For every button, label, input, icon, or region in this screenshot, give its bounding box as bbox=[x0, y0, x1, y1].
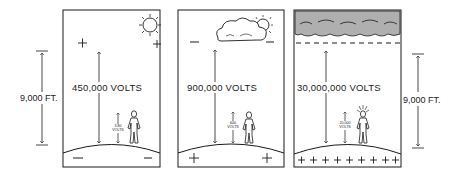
ground-curve bbox=[294, 145, 401, 155]
sky-charge-plus bbox=[78, 39, 161, 49]
cloudy-person-voltage: 600 VOLTS bbox=[225, 121, 241, 130]
fair-weather-atmosphere-voltage: 450,000 VOLTS bbox=[72, 82, 142, 93]
person-voltage-value: 3-80 bbox=[114, 124, 121, 128]
storm-cloud-icon bbox=[295, 11, 400, 36]
person-voltage-value: 600 bbox=[230, 121, 236, 125]
person-voltage-unit: VOLTS bbox=[112, 128, 124, 132]
fair-weather-person-voltage: 3-80 VOLTS bbox=[110, 124, 126, 133]
cloud-sun-icon bbox=[217, 15, 273, 41]
ground-charge-plus-row bbox=[298, 157, 399, 164]
sun-icon bbox=[139, 14, 161, 36]
person-icon bbox=[128, 111, 140, 143]
ground-curve bbox=[178, 144, 284, 153]
person-icon bbox=[243, 112, 255, 143]
thunderstorm-person-voltage: 20,000 VOLTS bbox=[336, 121, 354, 130]
person-voltage-value: 20,000 bbox=[340, 121, 351, 125]
ground-charge-plus bbox=[189, 153, 272, 163]
person-voltage-unit: VOLTS bbox=[227, 125, 239, 129]
ground-curve bbox=[63, 145, 160, 154]
thunderstorm-atmosphere-voltage: 30,000,000 VOLTS bbox=[297, 82, 381, 93]
cloudy-atmosphere-voltage: 900,000 VOLTS bbox=[187, 82, 257, 93]
left-height-label: 9,000 FT. bbox=[20, 93, 58, 103]
person-voltage-unit: VOLTS bbox=[339, 125, 351, 129]
person-hair-standing-icon bbox=[357, 105, 369, 143]
right-height-label: 9,000 FT. bbox=[403, 95, 441, 105]
